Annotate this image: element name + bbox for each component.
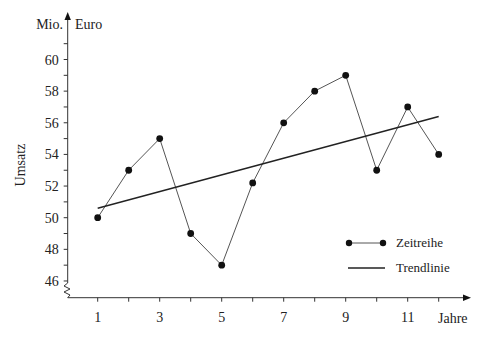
chart-canvas: 4648505254565860 1357911 Mio. Euro Umsat… [0, 0, 481, 337]
y-tick-label: 46 [45, 274, 59, 289]
x-axis-arrow-icon [463, 295, 471, 301]
x-tick-label: 11 [401, 310, 414, 325]
y-tick-label: 60 [45, 53, 59, 68]
legend: Zeitreihe Trendlinie [346, 235, 450, 275]
legend-marker-icon [346, 240, 352, 246]
axes: 4648505254565860 1357911 [45, 12, 471, 325]
data-point [249, 179, 256, 186]
data-point [373, 167, 380, 174]
y-tick-label: 50 [45, 211, 59, 226]
legend-item-zeitreihe: Zeitreihe [346, 235, 443, 250]
y-tick-label: 56 [45, 116, 59, 131]
data-point [435, 151, 442, 158]
y-unit-left-label: Mio. [36, 17, 63, 32]
legend-label-zeitreihe: Zeitreihe [396, 235, 443, 250]
data-point [311, 88, 318, 95]
y-tick-label: 52 [45, 179, 59, 194]
data-point [280, 119, 287, 126]
y-axis-break-icon [64, 283, 70, 298]
x-tick-label: 5 [218, 310, 225, 325]
series-layer [94, 72, 442, 269]
data-point [94, 214, 101, 221]
y-axis-title: Umsatz [13, 144, 28, 187]
data-point [342, 72, 349, 79]
y-ticks: 4648505254565860 [45, 44, 68, 289]
y-tick-label: 48 [45, 242, 59, 257]
y-axis-arrow-icon [65, 12, 71, 20]
data-point [404, 104, 411, 111]
series-trendlinie [98, 117, 439, 209]
data-point [187, 230, 194, 237]
y-tick-label: 54 [45, 147, 59, 162]
line-chart: 4648505254565860 1357911 Mio. Euro Umsat… [0, 0, 481, 337]
data-point [156, 135, 163, 142]
data-point [218, 262, 225, 269]
x-tick-label: 3 [156, 310, 163, 325]
series-zeitreihe [98, 75, 439, 265]
x-tick-label: 1 [94, 310, 101, 325]
data-point [125, 167, 132, 174]
x-axis-title: Jahre [438, 311, 468, 326]
x-ticks: 1357911 [94, 298, 439, 325]
x-tick-label: 9 [342, 310, 349, 325]
y-tick-label: 58 [45, 84, 59, 99]
legend-label-trendlinie: Trendlinie [396, 260, 450, 275]
legend-item-trendlinie: Trendlinie [348, 260, 450, 275]
x-tick-label: 7 [280, 310, 287, 325]
y-unit-right-label: Euro [75, 17, 102, 32]
legend-marker-icon [380, 240, 386, 246]
